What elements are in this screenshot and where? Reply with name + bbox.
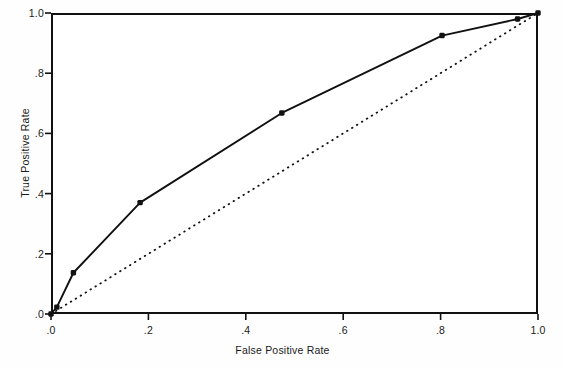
x-axis-title: False Positive Rate <box>0 344 565 356</box>
x-tick-label: .4 <box>226 325 266 336</box>
y-axis-title: True Positive Rate <box>19 73 31 233</box>
x-tick-label: .2 <box>128 325 168 336</box>
x-tick-label: .8 <box>421 325 461 336</box>
roc-curve-figure: .0.2.4.6.81.0 .0.2.4.6.81.0 False Positi… <box>0 0 565 369</box>
x-tick-label: 1.0 <box>518 325 558 336</box>
x-axis-tick-labels: .0.2.4.6.81.0 <box>0 0 565 369</box>
x-tick-label: .0 <box>31 325 71 336</box>
x-tick-label: .6 <box>323 325 363 336</box>
